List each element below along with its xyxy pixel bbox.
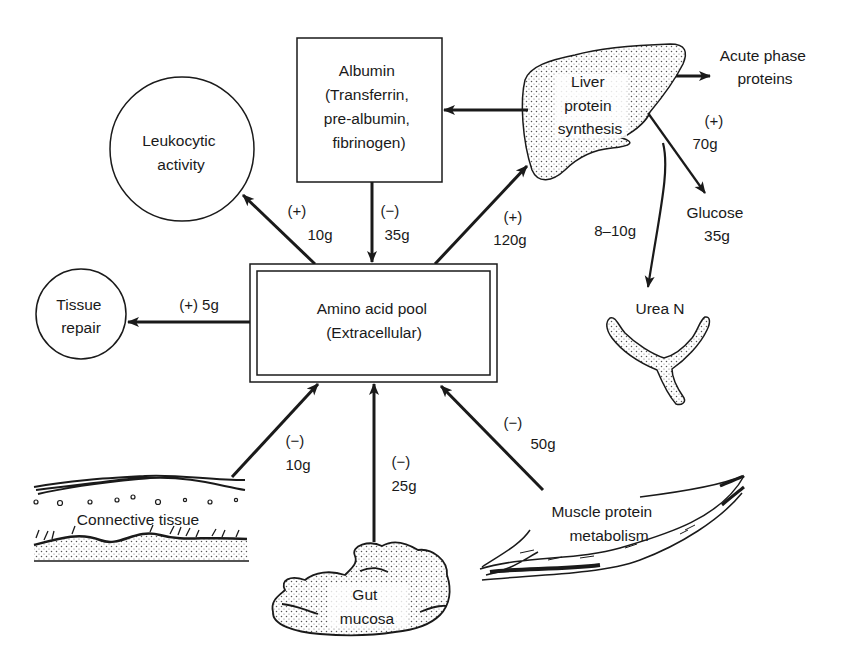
- svg-text:(−) 35g: (−) 35g: [381, 202, 410, 243]
- gut-mucosa-label: Gut: [352, 586, 378, 603]
- liver-to-urea-arrow: [648, 143, 665, 287]
- albumin-node: Albumin (Transferrin, pre-albumin, fibri…: [297, 38, 442, 182]
- pool-leukocytic-sign: (+): [288, 202, 307, 219]
- svg-text:(+) 120g: (+) 120g: [493, 208, 526, 248]
- urea-label: Urea N: [635, 300, 684, 317]
- tissue-repair-label: Tissue: [56, 296, 101, 313]
- gut-pool-sign: (−): [392, 453, 411, 470]
- liver-node: Liver protein synthesis: [522, 44, 685, 180]
- svg-text:(+) 70g: (+) 70g: [692, 112, 727, 152]
- albumin-pool-amount: 35g: [384, 226, 409, 243]
- albumin-pool-sign: (−): [381, 202, 400, 219]
- liver-urea-amount: 8–10g: [594, 222, 636, 239]
- connective-pool-sign: (−): [286, 432, 305, 449]
- liver-to-glucose-arrow: [648, 113, 705, 193]
- gut-pool-amount: 25g: [391, 477, 416, 494]
- muscle-label: Muscle protein: [551, 503, 652, 520]
- acute-phase-node: Acute phase proteins: [720, 47, 811, 87]
- ureter-shape: [607, 317, 710, 405]
- liver-label: Liver: [571, 73, 605, 90]
- pool-tissue-repair-label: (+) 5g: [179, 296, 219, 313]
- svg-text:(−) 25g: (−) 25g: [391, 453, 416, 494]
- pool-leukocytic-amount: 10g: [307, 226, 332, 243]
- connective-tissue-label: Connective tissue: [77, 511, 199, 528]
- leukocytic-label: Leukocytic: [142, 132, 215, 149]
- tissue-repair-node: Tissue repair: [36, 269, 126, 359]
- amino-acid-pool-node: Amino acid pool (Extracellular): [250, 264, 497, 382]
- svg-text:Muscle protein metabolis: Muscle protein metabolism: [551, 503, 656, 544]
- muscle-pool-sign: (−): [504, 414, 523, 431]
- albumin-label: Albumin: [339, 62, 395, 79]
- gut-mucosa-node: Gut mucosa: [272, 543, 449, 636]
- pool-liver-sign: (+): [504, 208, 523, 225]
- muscle-to-pool-arrow: [441, 386, 543, 490]
- glucose-node: Glucose 35g: [686, 204, 747, 244]
- connective-tissue-node: Connective tissue: [34, 476, 249, 561]
- pool-liver-amount: 120g: [493, 231, 526, 248]
- connective-pool-amount: 10g: [285, 456, 310, 473]
- liver-glucose-sign: (+): [705, 112, 724, 129]
- svg-text:(−) 50g: (−) 50g: [504, 414, 556, 452]
- muscle-node: Muscle protein metabolism: [480, 476, 744, 580]
- svg-text:(+) 10g: (+) 10g: [288, 202, 333, 243]
- liver-glucose-amount: 70g: [692, 135, 717, 152]
- muscle-pool-amount: 50g: [530, 435, 555, 452]
- urea-node: Urea N: [607, 300, 710, 405]
- connective-tissue-layers: [34, 476, 245, 494]
- protein-metabolism-diagram: Albumin (Transferrin, pre-albumin, fibri…: [0, 0, 853, 666]
- leukocytic-activity-node: Leukocytic activity: [110, 77, 254, 221]
- amino-pool-label: Amino acid pool: [317, 300, 427, 317]
- svg-text:(−) 10g: (−) 10g: [285, 432, 310, 473]
